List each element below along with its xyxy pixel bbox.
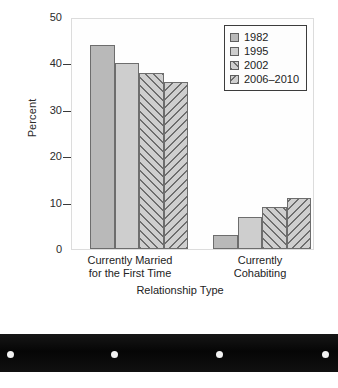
bar-married-2006 <box>164 82 189 249</box>
legend-label: 2002 <box>244 60 268 71</box>
legend-swatch-icon-2002 <box>230 61 239 70</box>
bar-chart-figure: Percent 01020304050 1982199520022006–201… <box>0 0 338 320</box>
x-category-label-cohabiting-line1: Currently <box>200 254 320 267</box>
scan-artifact-dot <box>322 351 329 358</box>
legend-label: 1995 <box>244 46 268 57</box>
chart-page: Percent 01020304050 1982199520022006–201… <box>0 0 338 388</box>
y-tick-mark-30 <box>63 111 71 112</box>
y-tick-label-50: 50 <box>32 12 62 23</box>
x-category-label-married-line1: Currently Married <box>60 254 200 267</box>
legend-swatch-icon-2006 <box>230 75 239 84</box>
legend-row-2002: 2002 <box>230 58 299 72</box>
legend-swatch-icon-1982 <box>230 33 239 42</box>
bar-cohabiting-1982 <box>213 235 238 249</box>
y-tick-label-0: 0 <box>32 244 62 255</box>
chart-legend: 1982199520022006–2010 <box>224 25 307 91</box>
bar-married-1982 <box>90 45 115 249</box>
legend-row-1982: 1982 <box>230 30 299 44</box>
x-category-label-cohabiting-line2: Cohabiting <box>200 267 320 280</box>
x-category-label-cohabiting: Currently Cohabiting <box>200 254 320 279</box>
legend-swatch-icon-1995 <box>230 47 239 56</box>
y-tick-mark-40 <box>63 64 71 65</box>
y-tick-label-40: 40 <box>32 58 62 69</box>
y-tick-mark-10 <box>63 204 71 205</box>
y-tick-mark-20 <box>63 157 71 158</box>
y-tick-label-10: 10 <box>32 198 62 209</box>
y-tick-label-20: 20 <box>32 151 62 162</box>
plot-area: 1982199520022006–2010 <box>71 18 314 250</box>
scan-artifact-band <box>0 334 338 372</box>
x-axis-title: Relationship Type <box>136 284 223 296</box>
bar-cohabiting-2006 <box>287 198 312 249</box>
scan-artifact-dot <box>111 351 118 358</box>
legend-label: 1982 <box>244 32 268 43</box>
bar-married-2002 <box>139 73 164 249</box>
x-category-label-married: Currently Married for the First Time <box>60 254 200 279</box>
x-axis-title-wrap: Relationship Type <box>0 284 338 296</box>
legend-label: 2006–2010 <box>244 74 299 85</box>
bar-married-1995 <box>115 63 140 249</box>
scan-artifact-dot <box>216 351 223 358</box>
bar-cohabiting-1995 <box>238 217 263 249</box>
x-category-label-married-line2: for the First Time <box>60 267 200 280</box>
y-tick-label-30: 30 <box>32 105 62 116</box>
bar-cohabiting-2002 <box>262 207 287 249</box>
legend-row-2006: 2006–2010 <box>230 72 299 86</box>
y-axis-title: Percent <box>26 78 38 158</box>
legend-row-1995: 1995 <box>230 44 299 58</box>
scan-artifact-dot <box>7 351 14 358</box>
